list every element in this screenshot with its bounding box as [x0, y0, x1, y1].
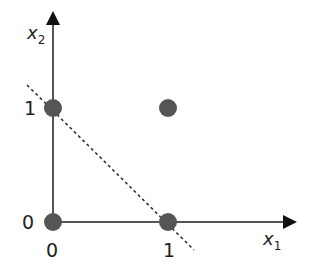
point-0-0 [44, 213, 62, 231]
x-tick-0: 0 [46, 239, 58, 261]
y-axis-arrow-icon [46, 11, 60, 25]
point-1-0 [159, 213, 177, 231]
x-axis-arrow-icon [283, 215, 297, 229]
y-axis-label: x2 [26, 22, 45, 47]
y-tick-1: 1 [24, 97, 36, 119]
point-1-1 [159, 99, 177, 117]
point-0-1 [44, 99, 62, 117]
y-tick-0: 0 [22, 211, 34, 233]
x-axis-label: x1 [262, 228, 281, 253]
x-tick-1: 1 [163, 239, 175, 261]
xor-diagram: x2 x1 1 0 0 1 [0, 0, 310, 271]
